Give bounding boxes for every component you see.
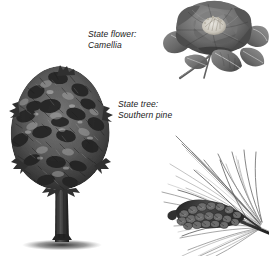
pine-branch-illustration [148, 128, 269, 256]
state-symbols-figure: State flower: Camellia State tree: South… [0, 0, 269, 256]
tree-crown [9, 65, 113, 197]
state-tree-label: State tree: Southern pine [118, 99, 172, 120]
state-flower-label-line2: Camellia [88, 40, 137, 51]
pine-tree-illustration [6, 62, 118, 254]
state-flower-label: State flower: Camellia [88, 29, 137, 50]
state-tree-label-line1: State tree: [118, 99, 172, 110]
state-tree-label-line2: Southern pine [118, 110, 172, 121]
pine-needles [162, 136, 262, 256]
camellia-bloom [176, 1, 252, 55]
camellia-illustration [158, 0, 269, 90]
state-flower-label-line1: State flower: [88, 29, 137, 40]
